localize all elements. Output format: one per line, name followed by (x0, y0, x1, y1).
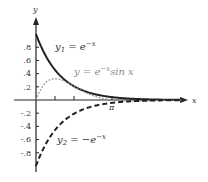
y-tick-label: -.8 (21, 149, 31, 158)
x-axis-label: x (192, 96, 197, 105)
label-damped-sine: y = e−xsin x (73, 65, 134, 77)
y-tick-label: .2 (23, 83, 31, 92)
y-tick-label: -.4 (21, 122, 31, 131)
y-tick-label: .4 (23, 69, 31, 78)
y-tick-label: .6 (23, 56, 31, 65)
chart: x y .8 .6 .4 .2 -.2 -.4 -.6 -.8 π y1 = e… (0, 0, 208, 182)
y-axis-arrow-icon (33, 17, 39, 25)
y-tick-label: .8 (23, 43, 31, 52)
y-axis-label: y (32, 5, 38, 14)
pi-tick-label: π (108, 103, 115, 112)
label-y2: y2 = −e−x (56, 133, 106, 147)
label-y1: y1 = e−x (54, 40, 96, 54)
y-tick-label: -.6 (21, 135, 31, 144)
y-tick-label: -.2 (21, 109, 31, 118)
